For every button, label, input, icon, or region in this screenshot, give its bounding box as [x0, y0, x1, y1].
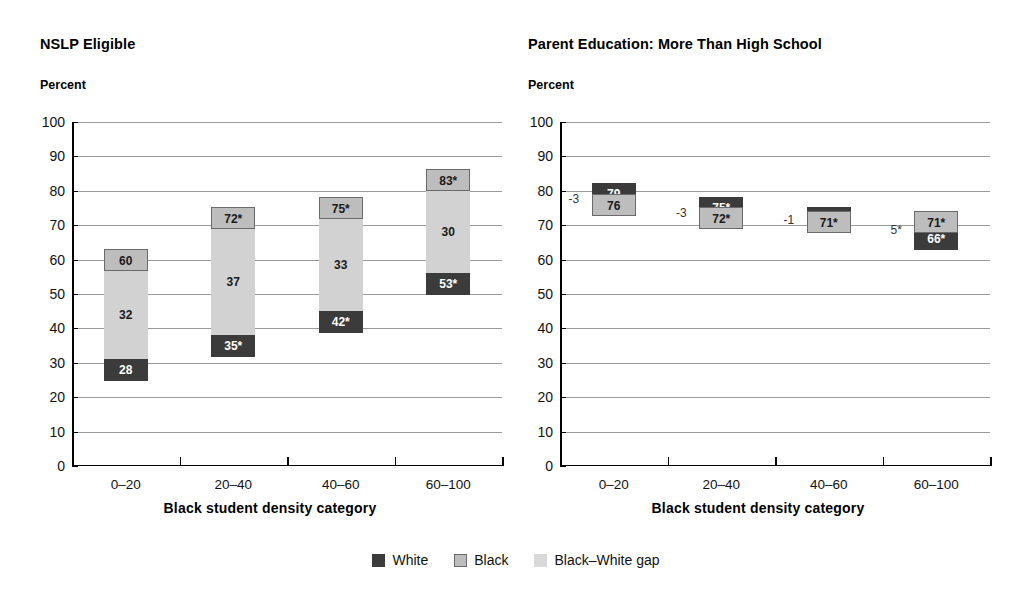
legend-swatch-white-icon — [372, 554, 385, 567]
y-tick-label: 90 — [537, 148, 553, 164]
legend-swatch-black-icon — [454, 554, 467, 567]
chart-legend: White Black Black–White gap — [0, 552, 1032, 568]
y-tick-mark — [72, 466, 78, 467]
panel-nslp-eligible: NSLP Eligible Percent 100908070605040302… — [20, 0, 520, 540]
gap-value-label: -1 — [783, 213, 794, 227]
black-value-box: 71* — [914, 211, 958, 233]
y-tick-label: 100 — [530, 114, 553, 130]
y-tick-label: 60 — [537, 252, 553, 268]
plot-area: 1009080706050403020100-379760–20-375*72*… — [560, 122, 990, 466]
black-value-box: 72* — [699, 207, 743, 229]
y-tick-label: 40 — [49, 320, 65, 336]
x-tick-label: 60–100 — [914, 477, 959, 492]
y-tick-label: 20 — [537, 389, 553, 405]
y-tick-label: 70 — [49, 217, 65, 233]
y-tick-label: 0 — [545, 458, 553, 474]
bar-group: -375*72* — [668, 122, 776, 466]
legend-label: White — [392, 552, 428, 568]
y-tick-label: 10 — [49, 424, 65, 440]
black-value-box: 72* — [211, 207, 255, 229]
bar-group: 3735*72* — [180, 122, 288, 466]
y-tick-label: 70 — [537, 217, 553, 233]
panel-title: NSLP Eligible — [40, 36, 135, 52]
x-axis-title: Black student density category — [20, 500, 520, 516]
bar-group: -37976 — [560, 122, 668, 466]
x-tick-label: 0–20 — [111, 477, 141, 492]
bar-group: 3053*83* — [395, 122, 503, 466]
x-tick-label: 20–40 — [214, 477, 252, 492]
black-value-box: 71* — [807, 211, 851, 233]
black-value-box: 83* — [426, 169, 470, 191]
y-tick-label: 80 — [49, 183, 65, 199]
gap-value-label: -3 — [676, 206, 687, 220]
y-tick-label: 40 — [537, 320, 553, 336]
gap-value-label: -3 — [568, 192, 579, 206]
y-tick-label: 80 — [537, 183, 553, 199]
y-tick-label: 100 — [42, 114, 65, 130]
y-tick-label: 10 — [537, 424, 553, 440]
legend-item-white: White — [372, 552, 428, 568]
y-tick-label: 30 — [49, 355, 65, 371]
white-value-box: 35* — [211, 335, 255, 357]
x-tick-label: 40–60 — [810, 477, 848, 492]
legend-label: Black — [474, 552, 508, 568]
y-tick-label: 30 — [537, 355, 553, 371]
legend-label: Black–White gap — [554, 552, 659, 568]
gap-value-label: 33 — [334, 258, 347, 272]
y-tick-label: 90 — [49, 148, 65, 164]
x-axis-line — [560, 465, 990, 467]
gap-value-label: 30 — [442, 225, 455, 239]
x-axis-line — [72, 465, 502, 467]
plot-area: 10090807060504030201003228600–203735*72*… — [72, 122, 502, 466]
black-value-box: 75* — [319, 197, 363, 219]
gap-value-label: 5* — [891, 223, 902, 237]
white-value-box: 28 — [104, 359, 148, 381]
x-tick-label: 60–100 — [426, 477, 471, 492]
bar-group: -172*71* — [775, 122, 883, 466]
y-axis-line — [72, 122, 74, 466]
y-tick-label: 50 — [49, 286, 65, 302]
x-tick-mark — [990, 457, 992, 466]
y-tick-label: 0 — [57, 458, 65, 474]
x-tick-label: 40–60 — [322, 477, 360, 492]
black-value-box: 76 — [592, 194, 636, 216]
legend-item-gap: Black–White gap — [534, 552, 659, 568]
x-tick-label: 0–20 — [599, 477, 629, 492]
chart-page: NSLP Eligible Percent 100908070605040302… — [0, 0, 1032, 605]
x-tick-label: 20–40 — [702, 477, 740, 492]
white-value-box: 42* — [319, 311, 363, 333]
y-axis-unit-label: Percent — [40, 78, 86, 92]
white-value-box: 53* — [426, 273, 470, 295]
y-tick-mark — [560, 466, 566, 467]
y-tick-label: 60 — [49, 252, 65, 268]
y-tick-label: 50 — [537, 286, 553, 302]
legend-swatch-gap-icon — [534, 554, 547, 567]
black-value-box: 60 — [104, 249, 148, 271]
panel-parent-education: Parent Education: More Than High School … — [508, 0, 1008, 540]
gap-value-label: 37 — [227, 275, 240, 289]
panel-title: Parent Education: More Than High School — [528, 36, 822, 52]
legend-item-black: Black — [454, 552, 508, 568]
x-tick-mark — [502, 457, 504, 466]
gap-value-label: 32 — [119, 308, 132, 322]
x-axis-title: Black student density category — [508, 500, 1008, 516]
y-axis-unit-label: Percent — [528, 78, 574, 92]
y-tick-label: 20 — [49, 389, 65, 405]
bar-group: 5*66*71* — [883, 122, 991, 466]
y-axis-line — [560, 122, 562, 466]
bar-group: 3342*75* — [287, 122, 395, 466]
bar-group: 322860 — [72, 122, 180, 466]
